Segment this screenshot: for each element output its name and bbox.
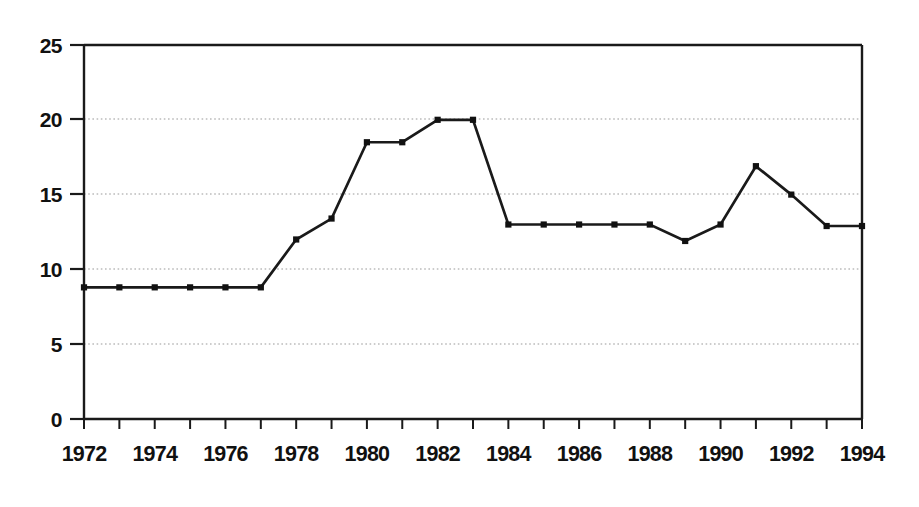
chart-background — [0, 0, 919, 507]
ytick-label-20: 20 — [40, 108, 62, 131]
data-point-1983 — [470, 117, 476, 123]
xtick-label-1974: 1974 — [132, 442, 177, 466]
line-chart: 25 20 15 10 5 0 197219741976197819801982… — [0, 0, 919, 507]
ytick-label-15: 15 — [40, 183, 63, 206]
ytick-label-5: 5 — [51, 333, 63, 356]
data-point-1994 — [859, 223, 865, 229]
data-point-1974 — [152, 284, 158, 290]
data-point-1984 — [505, 221, 511, 227]
data-point-1972 — [81, 284, 87, 290]
xtick-label-1992: 1992 — [769, 442, 814, 466]
xtick-label-1994: 1994 — [840, 442, 885, 466]
data-point-1978 — [293, 236, 299, 242]
data-point-1992 — [788, 192, 794, 198]
xtick-label-1990: 1990 — [698, 442, 743, 466]
data-point-1991 — [753, 163, 759, 169]
data-point-1989 — [682, 238, 688, 244]
xtick-label-1988: 1988 — [627, 442, 672, 466]
data-point-1977 — [258, 284, 264, 290]
data-point-1980 — [364, 139, 370, 145]
xtick-label-1972: 1972 — [62, 442, 107, 466]
xtick-label-1986: 1986 — [557, 442, 602, 466]
xtick-label-1980: 1980 — [345, 442, 390, 466]
ytick-label-0: 0 — [51, 408, 62, 431]
xtick-label-1976: 1976 — [203, 442, 248, 466]
data-point-1973 — [116, 284, 122, 290]
data-point-1976 — [222, 284, 228, 290]
data-point-1987 — [611, 221, 617, 227]
ytick-label-25: 25 — [40, 34, 63, 57]
data-point-1990 — [717, 221, 723, 227]
xtick-label-1984: 1984 — [486, 442, 531, 466]
data-point-1993 — [824, 223, 830, 229]
data-point-1981 — [399, 139, 405, 145]
data-point-1975 — [187, 284, 193, 290]
data-point-1982 — [435, 117, 441, 123]
chart-figure: 25 20 15 10 5 0 197219741976197819801982… — [0, 0, 919, 507]
ytick-label-10: 10 — [40, 258, 62, 281]
xtick-label-1982: 1982 — [415, 442, 460, 466]
data-point-1986 — [576, 221, 582, 227]
data-point-1985 — [541, 221, 547, 227]
xtick-label-1978: 1978 — [274, 442, 319, 466]
data-point-1988 — [647, 221, 653, 227]
data-point-1979 — [328, 215, 334, 221]
